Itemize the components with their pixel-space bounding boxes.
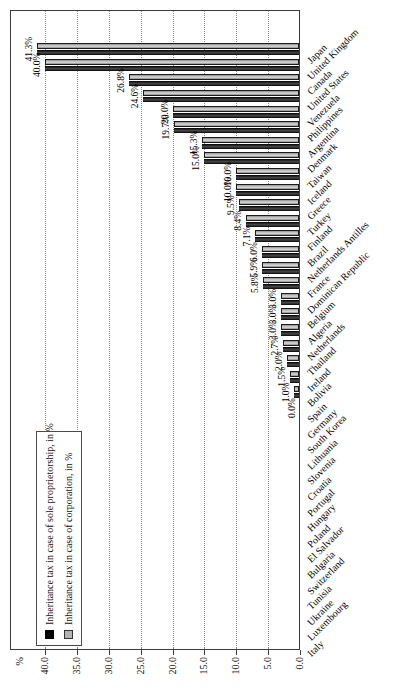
y-axis-tick-label: 40.0 xyxy=(39,657,51,691)
y-axis-tick-label: 0.0 xyxy=(294,657,306,691)
y-axis-tick-label: 15.0 xyxy=(198,657,210,691)
bar-sole-proprietorship-Argentina xyxy=(202,144,299,149)
y-axis-tick-label: 30.0 xyxy=(103,657,115,691)
y-axis-tick xyxy=(236,650,237,655)
value-label-Dominican Republic: 3.0% xyxy=(267,269,279,329)
y-axis-tick xyxy=(77,650,78,655)
y-axis-tick-label: 5.0 xyxy=(262,657,274,691)
bar-corporation-Greece xyxy=(239,199,299,205)
bar-corporation-Turkey xyxy=(246,215,299,221)
legend-swatch-black xyxy=(45,630,54,639)
bar-corporation-Brazil xyxy=(262,246,299,252)
bar-corporation-Ireland xyxy=(290,371,299,377)
y-axis-tick-label: 10.0 xyxy=(230,657,242,691)
y-axis-tick-label: 35.0 xyxy=(71,657,83,691)
y-axis-unit-label: % xyxy=(14,657,26,691)
bar-corporation-Dominican Republic xyxy=(281,293,299,299)
bar-corporation-Iceland xyxy=(236,184,299,190)
bar-corporation-Taiwan xyxy=(236,168,299,174)
bar-corporation-Denmark xyxy=(204,152,299,158)
y-axis-tick xyxy=(109,650,110,655)
legend-label: Inheritance tax in case of sole propriet… xyxy=(44,423,55,625)
legend-label: Inheritance tax in case of corporation, … xyxy=(63,452,74,625)
bar-corporation-Japan xyxy=(37,43,299,49)
bar-corporation-Argentina xyxy=(202,137,299,143)
y-axis-tick xyxy=(45,650,46,655)
y-axis-tick xyxy=(141,650,142,655)
value-label-United States: 24.6% xyxy=(129,66,141,126)
legend-swatch-gray xyxy=(64,630,73,639)
y-axis-tick xyxy=(300,650,301,655)
bar-sole-proprietorship-Denmark xyxy=(204,159,299,164)
bar-sole-proprietorship-Dominican Republic xyxy=(281,300,299,305)
y-axis-tick xyxy=(173,650,174,655)
y-axis-tick xyxy=(204,650,205,655)
value-label-Venezuela: 20.0% xyxy=(159,82,171,142)
gridline xyxy=(109,11,110,649)
value-label-Canada: 26.8% xyxy=(115,50,127,110)
y-axis-tick-label: 25.0 xyxy=(135,657,147,691)
value-label-Argentina: 15.3% xyxy=(188,113,200,173)
bar-corporation-Thailand xyxy=(287,355,299,361)
bar-corporation-United Kingdom xyxy=(45,59,299,65)
bar-corporation-Venezuela xyxy=(173,106,300,112)
bar-sole-proprietorship-Belgium xyxy=(281,315,299,320)
category-label-Italy: Italy xyxy=(305,638,326,659)
bar-sole-proprietorship-Taiwan xyxy=(236,175,299,180)
bar-sole-proprietorship-United Kingdom xyxy=(45,66,299,71)
y-axis-tick xyxy=(268,650,269,655)
y-axis-tick-label: 20.0 xyxy=(167,657,179,691)
value-label-Taiwan: 10.0% xyxy=(222,144,234,204)
bar-corporation-Algeria xyxy=(281,324,299,330)
bar-corporation-Netherlands Antilles xyxy=(262,262,299,268)
bar-corporation-Canada xyxy=(129,74,299,80)
legend-item-corporation: Inheritance tax in case of corporation, … xyxy=(63,452,74,639)
bar-sole-proprietorship-Finland xyxy=(255,237,299,242)
bar-corporation-Finland xyxy=(255,230,299,236)
screenshot-stage: % 0.05.010.015.020.025.030.035.040.0 Ita… xyxy=(0,0,402,696)
bar-corporation-Belgium xyxy=(281,308,299,314)
bar-sole-proprietorship-Japan xyxy=(37,50,299,55)
rotated-bar-chart: % 0.05.010.015.020.025.030.035.040.0 Ita… xyxy=(0,0,402,696)
bar-sole-proprietorship-Canada xyxy=(129,81,299,86)
value-label-Japan: 41.3% xyxy=(23,19,35,79)
bar-sole-proprietorship-Brazil xyxy=(262,253,299,258)
legend-box: Inheritance tax in case of sole propriet… xyxy=(36,431,82,646)
legend-item-sole-proprietorship: Inheritance tax in case of sole propriet… xyxy=(44,423,55,639)
bar-sole-proprietorship-Iceland xyxy=(236,191,299,196)
